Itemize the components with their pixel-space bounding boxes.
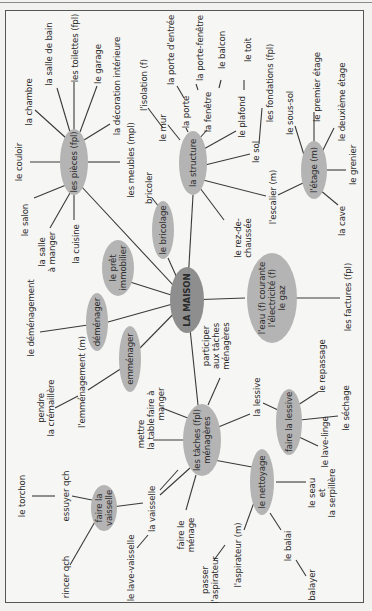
leaf-le-sechage: le séchage: [341, 385, 351, 430]
node-label-etage: l'étage (m): [309, 147, 319, 193]
leaf-le-lave-linge: le lave-linge: [320, 416, 330, 467]
leaf-le-sous-sol: le sous-sol: [285, 91, 295, 135]
leaf-le-couloir: le couloir: [14, 143, 24, 181]
leaf-la-lessive: la lessive: [252, 378, 262, 417]
leaf-la-salle-de-bain: la salle de bain: [44, 22, 54, 85]
leaf-rincer-qch: rincer qch: [61, 556, 71, 598]
leaf-la-salle-a-manger: la salle à manger: [37, 232, 57, 273]
leaf-la-cuisine: la cuisine: [71, 224, 81, 264]
leaf-les-toilettes: les toilettes (fpl): [70, 14, 80, 82]
node-label-lessive: faire la lessive: [284, 392, 294, 452]
node-label-taches: les tâches (fpl) ménagères: [192, 409, 212, 471]
leaf-le-toit: le toit: [243, 38, 253, 62]
leaf-les-fondations: les fondations (fpl): [265, 44, 275, 123]
leaf-lisolation: l'isolation (f): [139, 59, 149, 111]
leaf-les-meubles: les meubles (mpl): [126, 122, 136, 198]
node-label-pieces: les pièces (fpl): [69, 131, 79, 192]
leaf-le-sol: le sol: [251, 141, 261, 163]
leaf-faire-a-manger: faire à manger: [146, 388, 166, 421]
leaf-le-torchon: le torchon: [17, 475, 27, 517]
leaf-bricoler: bricoler: [144, 172, 154, 204]
node-label-pret: le prêt immobilier: [108, 246, 128, 291]
leaf-la-chambre: la chambre: [24, 78, 34, 125]
leaf-la-vaisselle: la vaisselle: [147, 486, 157, 532]
leaf-la-cave: la cave: [337, 206, 347, 236]
leaf-le-premier-etage: le premier étage: [312, 52, 322, 122]
leaf-balayer: balayer: [307, 569, 317, 601]
leaf-le-balai: le balai: [283, 531, 293, 561]
node-label-emmenager: emménager: [125, 333, 135, 384]
leaf-la-porte-dentree: la porte d'entrée: [166, 15, 176, 85]
leaf-lemmenagement: l'emménagement (m): [77, 336, 87, 428]
leaf-lescalier: l'escalier (m): [268, 170, 278, 225]
leaf-la-fenetre: la fenêtre: [203, 92, 213, 132]
leaf-le-garage: le garage: [93, 44, 103, 84]
node-label-nettoyage: le nettoyage: [257, 455, 267, 508]
leaf-la-porte-fenetre: la porte-fenêtre: [195, 15, 205, 81]
leaf-le-plafond: le plafond: [237, 96, 247, 138]
leaf-le-balcon: le balcon: [217, 31, 227, 69]
leaf-mettre-la-table: mettre la table: [136, 418, 156, 449]
leaf-faire-le-menage: faire le ménage: [176, 518, 196, 553]
leaf-le-repassage: le repassage: [317, 339, 327, 393]
node-label-vaisselle: faire la vaisselle: [94, 490, 114, 526]
node-label-demenager: déménager: [92, 298, 102, 347]
leaf-le-rez-de-chaussee: le rez-de- chaussée: [233, 218, 253, 258]
leaf-le-seau-et-la-serpillere: le seau et la serpillère: [307, 469, 337, 518]
leaf-le-grenier: le grenier: [348, 145, 358, 185]
center-label: LA MAISON: [182, 273, 192, 326]
node-label-eau: l'eau (f) courante l'électricité (f) le …: [257, 262, 287, 334]
leaf-participer-aux-taches: participer aux tâches ménagères: [201, 322, 231, 369]
leaf-le-demenagement: le déménagement: [26, 279, 36, 356]
node-label-structure: la structure: [188, 139, 198, 187]
node-label-bricolage: le bricolage: [158, 206, 168, 255]
leaf-le-lave-vaisselle: le lave-vaisselle: [126, 535, 136, 602]
leaf-la-decoration-interieure: la décoration intérieure: [112, 37, 122, 135]
leaf-passer-laspirateur: passer l'aspirateur: [200, 556, 220, 604]
leaf-les-factures: les factures (fpl): [343, 263, 353, 331]
leaf-le-salon: le salon: [20, 204, 30, 236]
leaf-laspirateur: l'aspirateur (m): [233, 523, 243, 588]
leaf-le-deuxieme-etage: le deuxième étage: [337, 63, 347, 142]
leaf-la-porte: la porte: [181, 96, 191, 129]
leaf-pendre-la-cremaillere: pendre la crémaillère: [36, 379, 56, 436]
leaf-le-mur: le mur: [158, 114, 168, 141]
leaf-essuyer-qch: essuyer qch: [61, 471, 71, 522]
